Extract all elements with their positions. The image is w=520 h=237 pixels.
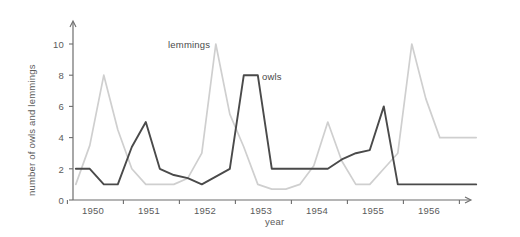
- ytick-label-10: 10: [42, 39, 64, 50]
- series-label-lemmings: lemmings: [168, 39, 210, 50]
- xtick-label-1955: 1955: [353, 205, 393, 216]
- xtick-label-1954: 1954: [297, 205, 337, 216]
- chart-plot-area: [0, 0, 520, 237]
- ytick-label-6: 6: [42, 101, 64, 112]
- xtick-label-1952: 1952: [185, 205, 225, 216]
- ytick-label-0: 0: [42, 195, 64, 206]
- chart-series: [76, 44, 476, 189]
- series-label-owls: owls: [262, 71, 282, 82]
- xtick-label-1950: 1950: [73, 205, 113, 216]
- xtick-label-1956: 1956: [409, 205, 449, 216]
- xtick-label-1951: 1951: [129, 205, 169, 216]
- y-axis-title: number of owls and lemmings: [26, 64, 37, 196]
- owls-lemmings-line-chart: 10 8 6 4 2 0 1950 1951 1952 1953 1954 19…: [0, 0, 520, 237]
- ytick-label-4: 4: [42, 132, 64, 143]
- ytick-label-2: 2: [42, 164, 64, 175]
- ytick-label-8: 8: [42, 70, 64, 81]
- x-axis-title: year: [265, 216, 284, 227]
- xtick-label-1953: 1953: [241, 205, 281, 216]
